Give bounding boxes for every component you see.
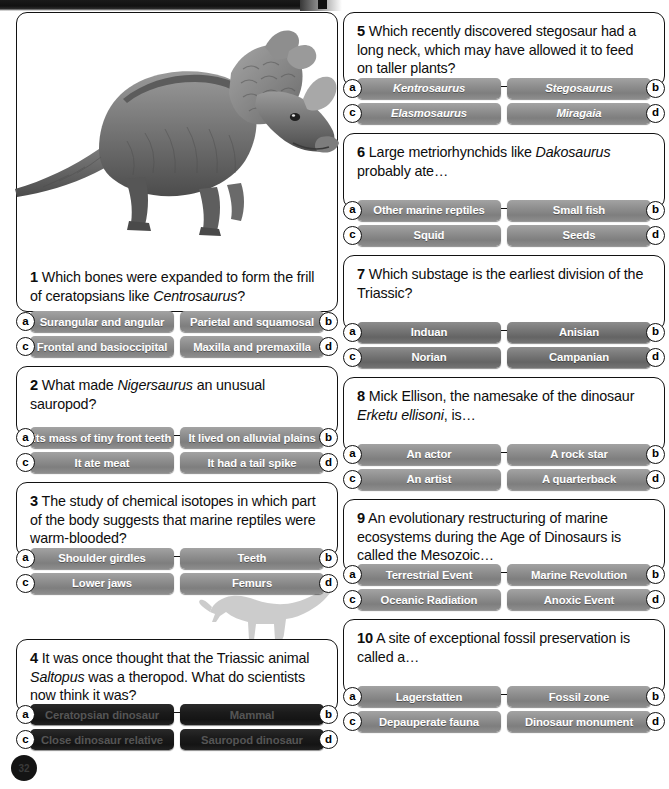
question-4-box: 4 It was once thought that the Triassic … bbox=[16, 639, 338, 714]
question-6-number: 6 bbox=[357, 144, 365, 160]
question-3-text: The study of chemical isotopes in which … bbox=[30, 493, 316, 546]
answer-option-b[interactable]: Small fish bbox=[507, 200, 651, 221]
question-6-answers: a Other marine reptiles Small fish b c S… bbox=[343, 200, 665, 247]
answer-row: a Shoulder girdles Teeth b bbox=[16, 548, 338, 570]
quiz-page: 1 Which bones were expanded to form the … bbox=[0, 0, 669, 789]
answer-option-a[interactable]: An actor bbox=[357, 444, 501, 465]
question-5-box: 5 Which recently discovered stegosaur ha… bbox=[343, 12, 665, 87]
answer-badge-a: a bbox=[343, 323, 362, 342]
question-card-4: 4 It was once thought that the Triassic … bbox=[16, 639, 338, 752]
answer-option-a[interactable]: Its mass of tiny front teeth bbox=[30, 427, 174, 448]
answer-badge-a: a bbox=[16, 428, 35, 447]
answer-option-d[interactable]: Seeds bbox=[507, 225, 651, 246]
answer-option-c[interactable]: Elasmosaurus bbox=[357, 103, 501, 124]
question-7-number: 7 bbox=[357, 266, 365, 282]
answer-option-a[interactable]: Surangular and angular bbox=[30, 311, 174, 332]
answer-option-b[interactable]: Mammal bbox=[180, 704, 324, 725]
answer-option-c[interactable]: Depauperate fauna bbox=[357, 711, 501, 732]
answer-option-b[interactable]: Parietal and squamosal bbox=[180, 311, 324, 332]
question-8-answers: a An actor A rock star b c An artist A q… bbox=[343, 444, 665, 491]
answer-badge-c: c bbox=[16, 337, 35, 356]
answer-option-c[interactable]: Lower jaws bbox=[30, 573, 174, 594]
answer-option-d[interactable]: Maxilla and premaxilla bbox=[180, 336, 324, 357]
answer-badge-b: b bbox=[319, 312, 338, 331]
answer-option-b[interactable]: Stegosaurus bbox=[507, 78, 651, 99]
page-number-label: 32 bbox=[11, 755, 37, 781]
answer-badge-d: d bbox=[646, 104, 665, 123]
answer-option-b[interactable]: A rock star bbox=[507, 444, 651, 465]
question-4-text: It was once thought that the Triassic an… bbox=[30, 650, 309, 703]
answer-badge-c: c bbox=[343, 226, 362, 245]
answer-option-a[interactable]: Ceratopsian dinosaur bbox=[30, 704, 174, 725]
answer-row: c An artist A quarterback d bbox=[343, 469, 665, 491]
answer-option-d[interactable]: A quarterback bbox=[507, 469, 651, 490]
answer-badge-b: b bbox=[646, 323, 665, 342]
answer-option-b[interactable]: It lived on alluvial plains bbox=[180, 427, 324, 448]
question-card-6: 6 Large metriorhynchids like Dakosaurus … bbox=[343, 133, 665, 247]
answer-option-c[interactable]: An artist bbox=[357, 469, 501, 490]
answer-row: a Ceratopsian dinosaur Mammal b bbox=[16, 704, 338, 726]
question-6-box: 6 Large metriorhynchids like Dakosaurus … bbox=[343, 133, 665, 209]
question-1-text: Which bones were expanded to form the fr… bbox=[30, 269, 314, 304]
answer-row: a Its mass of tiny front teeth It lived … bbox=[16, 427, 338, 449]
question-4-answers: a Ceratopsian dinosaur Mammal b c Close … bbox=[16, 704, 338, 751]
question-9-number: 9 bbox=[357, 510, 365, 526]
answer-row: a Lagerstatten Fossil zone b bbox=[343, 686, 665, 708]
question-1-answers: a Surangular and angular Parietal and sq… bbox=[16, 311, 338, 358]
answer-badge-d: d bbox=[646, 470, 665, 489]
answer-badge-c: c bbox=[16, 574, 35, 593]
question-5-number: 5 bbox=[357, 23, 365, 39]
question-2-number: 2 bbox=[30, 377, 38, 393]
question-7-box: 7 Which substage is the earliest divisio… bbox=[343, 255, 665, 331]
question-2-box: 2 What made Nigersaurus an unusual sauro… bbox=[16, 366, 338, 436]
answer-option-c[interactable]: It ate meat bbox=[30, 452, 174, 473]
answer-option-c[interactable]: Close dinosaur relative bbox=[30, 729, 174, 750]
answer-option-d[interactable]: Sauropod dinosaur bbox=[180, 729, 324, 750]
answer-badge-a: a bbox=[343, 445, 362, 464]
answer-row: c It ate meat It had a tail spike d bbox=[16, 452, 338, 474]
answer-option-d[interactable]: Dinosaur monument bbox=[507, 711, 651, 732]
answer-badge-b: b bbox=[319, 705, 338, 724]
question-9-box: 9 An evolutionary restructuring of marin… bbox=[343, 499, 665, 574]
answer-option-d[interactable]: Campanian bbox=[507, 347, 651, 368]
answer-option-c[interactable]: Squid bbox=[357, 225, 501, 246]
answer-option-a[interactable]: Lagerstatten bbox=[357, 686, 501, 707]
answer-row: a Other marine reptiles Small fish b bbox=[343, 200, 665, 222]
answer-option-b[interactable]: Anisian bbox=[507, 322, 651, 343]
answer-badge-c: c bbox=[343, 348, 362, 367]
answer-option-d[interactable]: Femurs bbox=[180, 573, 324, 594]
header-tick-mark bbox=[318, 0, 327, 9]
page-number-badge: 32 bbox=[11, 755, 37, 781]
answer-badge-c: c bbox=[343, 470, 362, 489]
question-card-10: 10 A site of exceptional fossil preserva… bbox=[343, 619, 665, 733]
answer-option-d[interactable]: Anoxic Event bbox=[507, 589, 651, 610]
question-8-text: Mick Ellison, the namesake of the dinosa… bbox=[357, 388, 634, 423]
answer-option-a[interactable]: Kentrosaurus bbox=[357, 78, 501, 99]
answer-option-a[interactable]: Induan bbox=[357, 322, 501, 343]
answer-option-a[interactable]: Shoulder girdles bbox=[30, 548, 174, 569]
answer-option-d[interactable]: It had a tail spike bbox=[180, 452, 324, 473]
question-card-8: 8 Mick Ellison, the namesake of the dino… bbox=[343, 377, 665, 491]
answer-badge-b: b bbox=[319, 549, 338, 568]
question-3-number: 3 bbox=[30, 493, 38, 509]
answer-badge-b: b bbox=[646, 687, 665, 706]
answer-option-a[interactable]: Other marine reptiles bbox=[357, 200, 501, 221]
answer-option-a[interactable]: Terrestrial Event bbox=[357, 564, 501, 585]
answer-option-b[interactable]: Teeth bbox=[180, 548, 324, 569]
answer-option-d[interactable]: Miragaia bbox=[507, 103, 651, 124]
question-card-3: 3 The study of chemical isotopes in whic… bbox=[16, 482, 338, 595]
artwork-card: 1 Which bones were expanded to form the … bbox=[16, 12, 338, 312]
answer-row: a Induan Anisian b bbox=[343, 322, 665, 344]
centrosaurus-illustration bbox=[3, 21, 339, 241]
left-column: 1 Which bones were expanded to form the … bbox=[16, 12, 338, 759]
answer-option-b[interactable]: Fossil zone bbox=[507, 686, 651, 707]
answer-option-c[interactable]: Oceanic Radiation bbox=[357, 589, 501, 610]
question-3-box: 3 The study of chemical isotopes in whic… bbox=[16, 482, 338, 557]
top-header-bar bbox=[0, 0, 300, 11]
question-7-text: Which substage is the earliest division … bbox=[357, 266, 643, 301]
answer-option-b[interactable]: Marine Revolution bbox=[507, 564, 651, 585]
answer-option-c[interactable]: Norian bbox=[357, 347, 501, 368]
answer-option-c[interactable]: Frontal and basioccipital bbox=[30, 336, 174, 357]
answer-badge-b: b bbox=[646, 79, 665, 98]
answer-badge-d: d bbox=[646, 590, 665, 609]
